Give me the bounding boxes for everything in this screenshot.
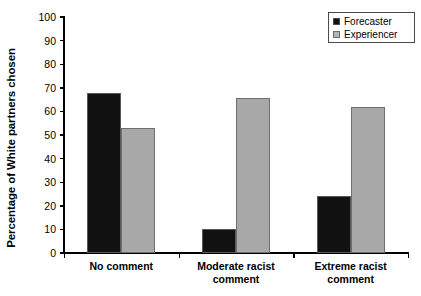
x-axis-tick-mark: [408, 253, 409, 258]
bar-experiencer-0: [121, 128, 155, 253]
x-axis-category-label: No comment: [64, 260, 179, 273]
black-square-swatch-icon: [333, 18, 340, 25]
x-axis-tick-mark: [293, 253, 294, 258]
y-axis-tick-label: 80: [24, 59, 56, 70]
gray-square-swatch-icon: [333, 31, 340, 38]
bar-forecaster-0: [87, 93, 121, 253]
legend: Forecaster Experiencer: [328, 12, 415, 43]
y-axis-tick-label: 10: [24, 224, 56, 235]
x-axis-category-label: Moderate racist comment: [179, 260, 294, 285]
x-axis-tick-mark: [64, 253, 65, 258]
bar-chart: Percentage of White partners chosen 0102…: [0, 0, 421, 296]
y-axis-tick-label: 60: [24, 106, 56, 117]
legend-item-forecaster: Forecaster: [333, 15, 410, 28]
y-axis-tick-label: 30: [24, 177, 56, 188]
legend-label-experiencer: Experiencer: [344, 30, 397, 40]
y-axis-tick-label: 0: [24, 248, 56, 259]
y-axis-tick-label: 70: [24, 83, 56, 94]
bar-forecaster-2: [317, 196, 351, 253]
legend-item-experiencer: Experiencer: [333, 28, 410, 41]
plot-area: [64, 17, 408, 253]
y-axis-title: Percentage of White partners chosen: [0, 0, 22, 296]
bar-experiencer-1: [236, 98, 270, 253]
x-axis-tick-mark: [179, 253, 180, 258]
y-axis-tick-label: 90: [24, 35, 56, 46]
x-axis-category-label: Extreme racist comment: [293, 260, 408, 285]
y-axis-tick-label: 20: [24, 201, 56, 212]
bar-forecaster-1: [202, 229, 236, 253]
y-axis-tick-label: 40: [24, 153, 56, 164]
y-axis-tick-label: 100: [24, 12, 56, 23]
y-axis-tick-label: 50: [24, 130, 56, 141]
legend-label-forecaster: Forecaster: [344, 17, 392, 27]
bar-experiencer-2: [351, 107, 385, 253]
